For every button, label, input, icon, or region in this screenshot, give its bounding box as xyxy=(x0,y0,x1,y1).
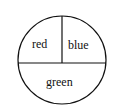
section-label-red: red xyxy=(32,38,47,50)
section-label-blue: blue xyxy=(68,39,89,51)
section-label-green: green xyxy=(46,76,73,88)
spinner-diagram xyxy=(0,0,113,105)
